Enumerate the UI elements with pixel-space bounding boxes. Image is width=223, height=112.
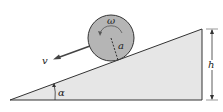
velocity-arrow xyxy=(53,46,90,60)
height-label: h xyxy=(208,59,214,70)
velocity-label: v xyxy=(42,55,48,66)
angle-label: α xyxy=(58,87,65,98)
radius-label: a xyxy=(118,40,124,51)
rolling-disk-incline-diagram: α h v ω a xyxy=(0,0,223,112)
angular-velocity-label: ω xyxy=(107,15,115,26)
